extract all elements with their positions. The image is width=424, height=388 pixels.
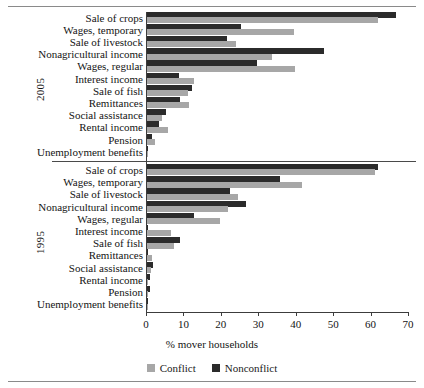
x-tick xyxy=(146,312,147,316)
x-tick xyxy=(333,312,334,316)
category-label: Unemployment benefits xyxy=(1,299,143,310)
bar-conflict xyxy=(147,41,236,47)
category-label: Nonagricultural income xyxy=(1,202,143,213)
bar-conflict xyxy=(147,102,189,108)
bar-conflict xyxy=(147,206,228,212)
x-tick xyxy=(371,312,372,316)
x-axis-line xyxy=(146,312,408,313)
category-label: Nonagricultural income xyxy=(1,49,143,60)
bar-conflict xyxy=(147,169,375,175)
bar-conflict xyxy=(147,115,162,121)
category-label: Sale of livestock xyxy=(1,37,143,48)
top-rule xyxy=(8,6,416,7)
category-label: Social assistance xyxy=(1,263,143,274)
x-tick-label: 40 xyxy=(290,318,301,330)
bar-conflict xyxy=(147,267,151,273)
x-tick xyxy=(296,312,297,316)
category-label: Sale of crops xyxy=(1,13,143,24)
bar-conflict xyxy=(147,54,272,60)
category-label: Sale of crops xyxy=(1,165,143,176)
x-tick-label: 0 xyxy=(143,318,149,330)
x-tick-label: 10 xyxy=(178,318,189,330)
bottom-rule xyxy=(8,381,416,382)
category-label: Wages, temporary xyxy=(1,25,143,36)
category-label: Interest income xyxy=(1,74,143,85)
category-label: Rental income xyxy=(1,122,143,133)
category-label: Remittances xyxy=(1,250,143,261)
x-tick xyxy=(408,312,409,316)
bar-conflict xyxy=(147,29,294,35)
x-tick-label: 60 xyxy=(365,318,376,330)
bar-conflict xyxy=(147,151,148,157)
bar-conflict xyxy=(147,17,378,23)
x-tick-label: 20 xyxy=(215,318,226,330)
bar-conflict xyxy=(147,279,148,285)
category-label: Sale of fish xyxy=(1,86,143,97)
bar-conflict xyxy=(147,230,171,236)
category-label: Remittances xyxy=(1,98,143,109)
category-label: Rental income xyxy=(1,275,143,286)
category-label: Wages, temporary xyxy=(1,177,143,188)
bar-conflict xyxy=(147,291,148,297)
category-label: Social assistance xyxy=(1,110,143,121)
category-label: Pension xyxy=(1,135,143,146)
legend-item-nonconflict: Nonconflict xyxy=(212,362,278,374)
x-tick xyxy=(183,312,184,316)
bar-conflict xyxy=(147,139,155,145)
legend-label-conflict: Conflict xyxy=(160,362,196,374)
legend-label-nonconflict: Nonconflict xyxy=(225,362,278,374)
category-label: Unemployment benefits xyxy=(1,147,143,158)
category-label: Sale of fish xyxy=(1,238,143,249)
x-tick-label: 30 xyxy=(253,318,264,330)
legend-swatch-conflict xyxy=(147,364,155,372)
category-label: Sale of livestock xyxy=(1,189,143,200)
x-tick xyxy=(221,312,222,316)
bar-conflict xyxy=(147,182,302,188)
chart-legend: ConflictNonconflict xyxy=(0,362,424,374)
category-label: Interest income xyxy=(1,226,143,237)
plot-area xyxy=(146,12,408,312)
x-axis-title: % mover households xyxy=(0,338,424,350)
bar-conflict xyxy=(147,255,152,261)
bar-conflict xyxy=(147,243,174,249)
x-tick-label: 70 xyxy=(403,318,414,330)
category-label: Wages, regular xyxy=(1,61,143,72)
category-label: Pension xyxy=(1,287,143,298)
x-tick-label: 50 xyxy=(328,318,339,330)
bar-conflict xyxy=(147,78,194,84)
bar-conflict xyxy=(147,194,238,200)
bar-conflict xyxy=(147,66,295,72)
bar-conflict xyxy=(147,90,188,96)
category-label: Wages, regular xyxy=(1,214,143,225)
legend-item-conflict: Conflict xyxy=(147,362,196,374)
x-tick xyxy=(258,312,259,316)
bar-conflict xyxy=(147,127,168,133)
bar-conflict xyxy=(147,218,220,224)
chart-figure: 2005 1995 Sale of cropsWages, temporaryS… xyxy=(0,0,424,388)
legend-swatch-nonconflict xyxy=(212,364,220,372)
